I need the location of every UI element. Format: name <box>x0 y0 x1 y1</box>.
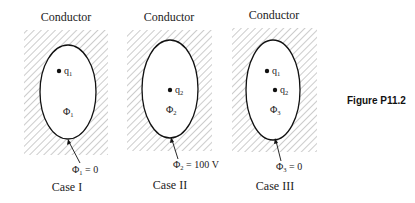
case-1-diagram: Conductor q1 Φ1 Φ1 = 0 Case I <box>24 10 108 194</box>
case-3-diagram: Conductor q1 q2 Φ3 Φ3 = 0 Case III <box>232 8 317 193</box>
case-3-conductor-title: Conductor <box>249 8 300 22</box>
figure-canvas: Conductor q1 Φ1 Φ1 = 0 Case I Conductor … <box>0 0 415 203</box>
case-2-label: Case II <box>153 178 187 192</box>
charge-dot-icon <box>57 69 61 73</box>
case-2-conductor-title: Conductor <box>144 10 195 24</box>
case-1-label: Case I <box>52 180 82 194</box>
case-2-boundary-label: Φ2 = 100 V <box>173 159 220 171</box>
figure-label: Figure P11.2 <box>347 95 406 106</box>
charge-dot-icon <box>168 88 172 92</box>
case-1-boundary-label: Φ1 = 0 <box>72 164 98 176</box>
case-2-diagram: Conductor q2 Φ2 Φ2 = 100 V Case II <box>127 10 220 192</box>
case-1-cavity <box>40 45 96 139</box>
charge-dot-icon <box>273 88 277 92</box>
case-1-conductor-title: Conductor <box>41 10 92 24</box>
case-3-boundary-label: Φ3 = 0 <box>276 161 302 173</box>
case-3-label: Case III <box>256 179 294 193</box>
charge-dot-icon <box>265 69 269 73</box>
